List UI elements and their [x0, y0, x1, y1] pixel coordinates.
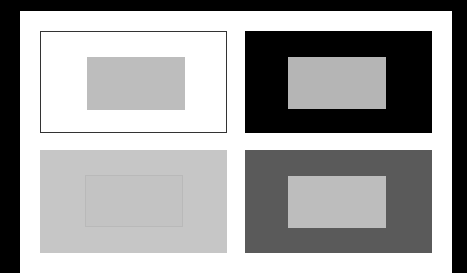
- panel-black-background: [245, 31, 432, 133]
- gray-rectangle: [288, 176, 386, 228]
- gray-rectangle: [288, 57, 386, 109]
- panel-light-gray-background: [40, 150, 227, 253]
- panel-dark-gray-background: [245, 150, 432, 253]
- gray-rectangle: [87, 57, 185, 110]
- panel-white-background: [40, 31, 227, 133]
- gray-rectangle: [85, 175, 183, 227]
